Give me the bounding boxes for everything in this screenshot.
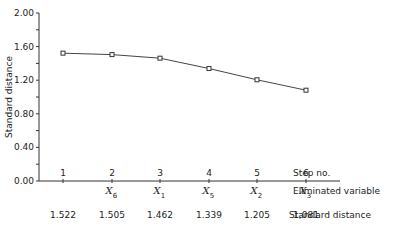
- distance-value: 1.205: [244, 210, 270, 220]
- step-number: 5: [254, 168, 260, 178]
- distance-values: 1.5221.5051.4621.3391.2051,081: [50, 210, 319, 220]
- y-tick-label: 0.00: [14, 176, 34, 186]
- step-number: 4: [206, 168, 212, 178]
- eliminated-variables: X6X1X5X2X3: [104, 185, 311, 200]
- y-tick-label: 1.60: [14, 42, 34, 52]
- step-no-label: Step no.: [293, 168, 330, 178]
- standard-distance-label: Standard distance: [289, 210, 371, 220]
- data-point-marker: [61, 51, 65, 55]
- y-tick-label: 0.80: [14, 109, 34, 119]
- step-number: 3: [157, 168, 163, 178]
- distance-value: 1.462: [147, 210, 173, 220]
- y-tick-labels: 0.000.400.801.201.602.00: [14, 8, 34, 186]
- series-line: [63, 53, 306, 90]
- eliminated-variable-subscript: 5: [210, 192, 214, 200]
- eliminated-variable-subscript: 1: [161, 192, 165, 200]
- y-tick-label: 2.00: [14, 8, 34, 18]
- eliminated-variable-subscript: 6: [113, 192, 118, 200]
- step-number: 2: [109, 168, 115, 178]
- step-number: 1: [60, 168, 66, 178]
- data-point-marker: [158, 56, 162, 60]
- stepwise-distance-chart: 0.000.400.801.201.602.00 Standard distan…: [0, 0, 411, 231]
- series-markers: [61, 51, 308, 92]
- y-axis-title: Standard distance: [4, 56, 14, 138]
- step-numbers: 123456: [60, 168, 309, 178]
- y-tick-label: 1.20: [14, 75, 34, 85]
- y-tick-label: 0.40: [14, 142, 34, 152]
- data-point-marker: [304, 88, 308, 92]
- data-point-marker: [110, 53, 114, 57]
- data-point-marker: [255, 78, 259, 82]
- data-point-marker: [207, 67, 211, 71]
- distance-value: 1.522: [50, 210, 76, 220]
- eliminated-variable-subscript: 2: [258, 192, 262, 200]
- distance-value: 1.505: [99, 210, 125, 220]
- distance-value: 1.339: [196, 210, 222, 220]
- eliminated-variable-label: Eliminated variable: [293, 186, 381, 196]
